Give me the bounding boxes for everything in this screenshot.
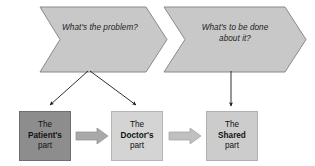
stage-box-shared-line-3: part <box>225 141 239 152</box>
chevron-plan-label: What's to be done about it? <box>193 23 277 44</box>
stage-box-shared-line-2: Shared <box>218 131 246 142</box>
stage-box-patient-line-3: part <box>38 141 52 152</box>
connector-problem-to-doctor <box>90 71 136 105</box>
chevron-problem-shape <box>40 7 167 72</box>
stage-box-doctor-line-1: The <box>130 120 144 131</box>
chevron-plan-line-1: What's to be <box>202 23 248 32</box>
flow-arrow-patient-to-doctor <box>76 128 108 144</box>
stage-box-shared: The Shared part <box>206 111 258 161</box>
flow-arrow-doctor-to-shared <box>169 128 201 144</box>
connector-problem-to-patient <box>50 71 88 105</box>
process-diagram: What's the problem? What's to be done ab… <box>0 0 315 166</box>
stage-box-patient-line-2: Patient's <box>28 131 62 142</box>
stage-box-doctor-line-2: Doctor's <box>121 131 154 142</box>
stage-box-doctor-line-3: part <box>130 141 144 152</box>
stage-box-patient-line-1: The <box>38 120 52 131</box>
stage-box-patient: The Patient's part <box>19 111 71 161</box>
stage-box-shared-line-1: The <box>225 120 239 131</box>
stage-box-doctor: The Doctor's part <box>111 111 163 161</box>
chevron-problem-line-2: problem? <box>103 23 138 32</box>
chevron-problem-label: What's the problem? <box>62 23 138 34</box>
chevron-problem-line-1: What's the <box>62 23 101 32</box>
